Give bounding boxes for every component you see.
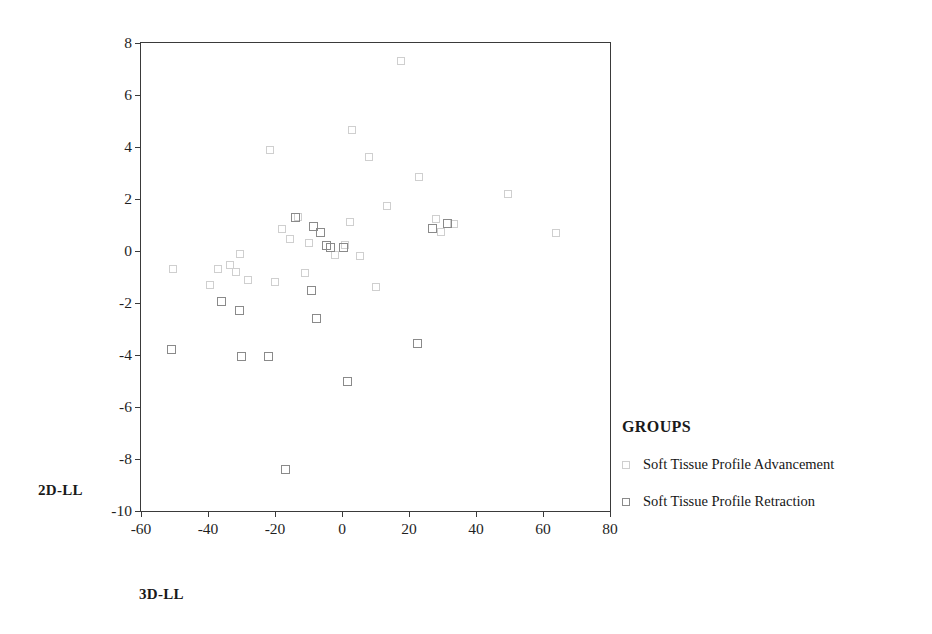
x-axis-title: 3D-LL <box>139 586 184 603</box>
plot-area: 86420‐2‐4‐6‐8‐10‐60‐40‐20020406080 <box>140 42 611 512</box>
data-point <box>552 229 560 237</box>
x-axis-tick-label: ‐20 <box>265 520 286 538</box>
scatter-plot-figure: 86420‐2‐4‐6‐8‐10‐60‐40‐20020406080 2D-LL… <box>0 0 932 634</box>
data-point <box>331 251 339 259</box>
data-point <box>305 239 313 247</box>
x-axis-tick <box>275 511 276 517</box>
y-axis-tick-label: 4 <box>124 138 132 156</box>
data-point <box>415 173 423 181</box>
y-axis-tick-label: ‐6 <box>119 398 132 416</box>
x-axis-tick <box>208 511 209 517</box>
data-point <box>365 153 373 161</box>
legend-items: Soft Tissue Profile AdvancementSoft Tiss… <box>622 456 922 510</box>
legend-item-label: Soft Tissue Profile Retraction <box>643 493 815 510</box>
data-point <box>301 269 309 277</box>
x-axis-tick <box>543 511 544 517</box>
y-axis-tick <box>135 407 141 408</box>
x-axis-tick-label: 0 <box>338 520 346 538</box>
data-point <box>291 213 300 222</box>
data-point <box>237 352 246 361</box>
data-point <box>244 276 252 284</box>
legend-item[interactable]: Soft Tissue Profile Retraction <box>622 493 922 510</box>
data-point <box>217 297 226 306</box>
y-axis-tick <box>135 147 141 148</box>
data-point <box>169 265 177 273</box>
y-axis-tick <box>135 199 141 200</box>
legend-swatch-icon <box>622 498 630 506</box>
data-point <box>413 339 422 348</box>
x-axis-tick <box>141 511 142 517</box>
data-point <box>312 314 321 323</box>
y-axis-tick <box>135 303 141 304</box>
data-point <box>356 252 364 260</box>
y-axis-tick-label: ‐2 <box>119 294 132 312</box>
y-axis-tick-label: ‐8 <box>119 450 132 468</box>
data-point <box>214 265 222 273</box>
y-axis-tick-label: 6 <box>124 86 132 104</box>
x-axis-tick-label: ‐40 <box>198 520 219 538</box>
y-axis-tick-label: ‐4 <box>119 346 132 364</box>
legend-title: GROUPS <box>622 418 922 436</box>
data-point <box>235 306 244 315</box>
data-point <box>278 225 286 233</box>
y-axis-tick-label: 0 <box>124 242 132 260</box>
data-point <box>326 243 335 252</box>
x-axis-tick <box>610 511 611 517</box>
data-point <box>343 377 352 386</box>
x-axis-tick <box>476 511 477 517</box>
data-point <box>339 243 348 252</box>
y-axis-tick-label: 8 <box>124 34 132 52</box>
x-axis-tick-label: 80 <box>602 520 618 538</box>
legend-item[interactable]: Soft Tissue Profile Advancement <box>622 456 922 473</box>
x-axis-tick <box>342 511 343 517</box>
x-axis-tick <box>409 511 410 517</box>
data-point <box>383 202 391 210</box>
y-axis-tick <box>135 251 141 252</box>
data-point <box>348 126 356 134</box>
data-point <box>443 219 452 228</box>
data-point <box>206 281 214 289</box>
y-axis-tick-label: 2 <box>124 190 132 208</box>
data-point <box>307 286 316 295</box>
data-point <box>316 228 325 237</box>
data-point <box>286 235 294 243</box>
legend-swatch-icon <box>622 461 630 469</box>
y-axis-tick <box>135 95 141 96</box>
data-point <box>232 268 240 276</box>
x-axis-tick-label: 20 <box>401 520 417 538</box>
x-axis-tick-label: 60 <box>535 520 551 538</box>
data-point <box>236 250 244 258</box>
y-axis-tick <box>135 459 141 460</box>
data-point <box>437 228 445 236</box>
y-axis-tick <box>135 355 141 356</box>
y-axis-title: 2D-LL <box>38 482 83 499</box>
data-point <box>271 278 279 286</box>
data-point <box>428 224 437 233</box>
data-point <box>346 218 354 226</box>
data-point <box>504 190 512 198</box>
legend: GROUPS Soft Tissue Profile AdvancementSo… <box>622 418 922 530</box>
data-point <box>167 345 176 354</box>
y-axis-tick-label: ‐10 <box>111 502 132 520</box>
data-point <box>266 146 274 154</box>
x-axis-tick-label: ‐60 <box>131 520 152 538</box>
y-axis-tick <box>135 43 141 44</box>
data-points-layer <box>141 43 610 511</box>
data-point <box>397 57 405 65</box>
x-axis-tick-label: 40 <box>468 520 484 538</box>
data-point <box>264 352 273 361</box>
data-point <box>281 465 290 474</box>
data-point <box>432 215 440 223</box>
legend-item-label: Soft Tissue Profile Advancement <box>643 456 834 473</box>
data-point <box>372 283 380 291</box>
